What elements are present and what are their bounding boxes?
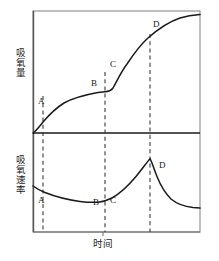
bottom-panel-y-axis-label: 吸氧速率 [14, 155, 25, 195]
bottom-point-label-d: D [159, 160, 166, 170]
plot-frame [33, 11, 200, 232]
top-panel-curve [33, 15, 200, 133]
top-panel-y-axis-label: 吸氧量 [14, 48, 25, 78]
bottom-panel-curve [33, 159, 200, 209]
x-axis-label: 时间 [93, 236, 113, 250]
top-point-label-c: C [110, 59, 116, 69]
top-point-label-a: A [38, 96, 45, 106]
bottom-point-label-b: B [93, 197, 99, 207]
figure-container: 吸氧量 吸氧速率 时间 A B C D A B C D [0, 0, 219, 261]
bottom-point-label-c: C [110, 195, 116, 205]
top-point-label-b: B [91, 78, 97, 88]
bottom-point-label-a: A [38, 195, 45, 205]
figure-plot-svg [0, 0, 219, 261]
top-point-label-d: D [153, 19, 160, 29]
